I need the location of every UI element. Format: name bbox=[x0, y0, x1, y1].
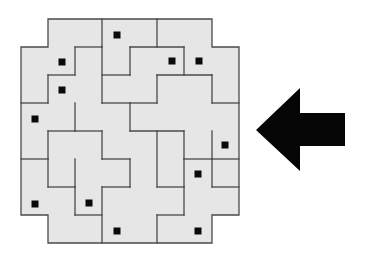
marked-square-icon bbox=[59, 59, 66, 66]
marked-square-icon bbox=[32, 116, 39, 123]
figure: Tiled puzzle with marked squares and lef… bbox=[0, 0, 366, 261]
marked-square-icon bbox=[86, 200, 93, 207]
marked-square-icon bbox=[114, 32, 121, 39]
marked-square-icon bbox=[195, 228, 202, 235]
marked-square-icon bbox=[196, 58, 203, 65]
left-arrow-icon bbox=[256, 88, 345, 171]
puzzle-board bbox=[21, 19, 239, 243]
marked-square-icon bbox=[59, 87, 66, 94]
marked-square-icon bbox=[195, 171, 202, 178]
marked-square-icon bbox=[169, 58, 176, 65]
marked-square-icon bbox=[32, 201, 39, 208]
marked-square-icon bbox=[114, 228, 121, 235]
marked-square-icon bbox=[222, 142, 229, 149]
puzzle-canvas bbox=[0, 0, 366, 261]
